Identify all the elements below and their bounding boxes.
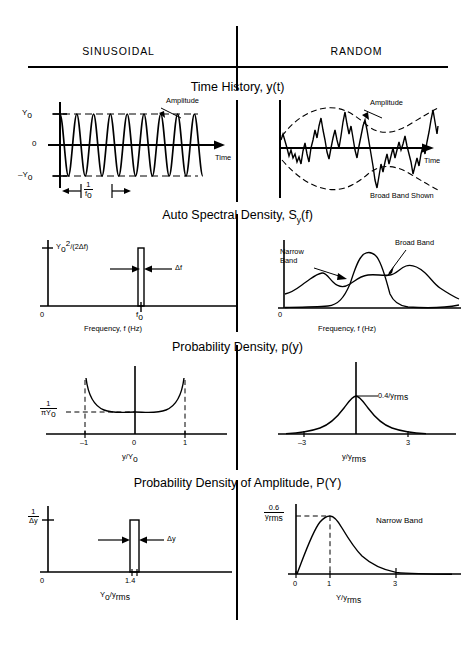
axis-tick-three: 3	[406, 438, 410, 447]
plot-random-pdf-amplitude: 0.6yrms 0 1 3 Narrow Band Y/yrms	[256, 498, 468, 590]
section-title-probability-density-amplitude: Probability Density of Amplitude, P(Y)	[0, 476, 475, 490]
figure-page: SINUSOIDAL RANDOM Time History, y(t)	[0, 0, 475, 664]
axis-tick-zero: 0	[40, 576, 44, 585]
plot-random-asd: 0 NarrowBand Broad Band Frequency, f (Hz…	[256, 228, 468, 320]
column-header-sinusoidal: SINUSOIDAL	[0, 45, 237, 57]
axis-label-y-top: Yo	[22, 108, 32, 120]
column-divider-4	[236, 345, 238, 470]
annotation-amplitude: Amplitude	[370, 98, 403, 107]
annotation-amplitude: Amplitude	[166, 96, 199, 105]
axis-tick-zero: 0	[293, 579, 297, 588]
axis-tick-three: 3	[393, 579, 397, 588]
axis-tick-zero: 0	[40, 310, 44, 319]
axis-tick-f0: fo	[136, 310, 143, 322]
axis-tick-zero: 0	[132, 438, 136, 447]
column-divider-5	[236, 480, 238, 620]
plot-sinusoidal-pdf: 1πYo –1 0 1 y/Yo	[22, 362, 236, 448]
plot-sinusoidal-asd: Yo2/(2Δf) 0 fo Δf Frequency, f (Hz)	[22, 236, 236, 318]
axis-label-y-min: 1πYo	[40, 400, 57, 419]
annotation-peak-value: 0.4/yrms	[378, 391, 408, 402]
plot-sinusoidal-pdf-amplitude: 1Δy 0 1.4 Δy Yo/yrms	[22, 500, 236, 586]
column-header-random: RANDOM	[238, 45, 475, 57]
section-title-time-history: Time History, y(t)	[0, 80, 475, 94]
axis-label-frequency: Frequency, f (Hz)	[84, 324, 142, 333]
section-title-probability-density: Probability Density, p(y)	[0, 340, 475, 354]
section-title-auto-spectral-density: Auto Spectral Density, Sy(f)	[0, 208, 475, 225]
axis-tick-minus-three: –3	[298, 438, 306, 447]
column-divider-2	[236, 100, 238, 202]
axis-label-time: Time	[215, 153, 231, 162]
axis-label-peak-value: 0.6yrms	[264, 504, 284, 523]
axis-label-y-bottom: –Yo	[18, 170, 33, 182]
plot-random-time-history: Time Amplitude Broad Band Shown	[252, 96, 467, 204]
axis-label-y-zero: 0	[32, 139, 36, 148]
axis-tick-zero: 0	[278, 310, 282, 319]
annotation-delta-y: Δy	[167, 534, 176, 543]
axis-label-y-over-y0: y/Yo	[122, 452, 138, 464]
axis-label-one-over-delta-y: 1Δy	[28, 508, 39, 525]
axis-label-Y-over-yrms: Y/yrms	[336, 593, 361, 605]
axis-label-y0-over-yrms: Yo/yrms	[100, 590, 130, 602]
annotation-period: 1fo	[84, 181, 93, 200]
column-divider-3	[236, 214, 238, 332]
axis-tick-minus-one: –1	[80, 438, 88, 447]
axis-label-frequency: Frequency, f (Hz)	[318, 324, 376, 333]
axis-label-time: Time	[424, 156, 440, 165]
annotation-broad-band: Broad Band	[395, 238, 434, 247]
axis-label-y-peak: Yo2/(2Δf)	[56, 239, 88, 254]
axis-tick-1-4: 1.4	[125, 576, 135, 585]
axis-tick-one: 1	[183, 438, 187, 447]
annotation-narrow-band: Narrow Band	[376, 516, 423, 525]
axis-label-y-over-yrms: y/yrms	[342, 452, 366, 464]
axis-tick-one: 1	[327, 579, 331, 588]
annotation-narrow-band: NarrowBand	[280, 248, 304, 265]
plot-random-pdf: 0.4/yrms –3 3 y/yrms	[256, 358, 468, 450]
plot-sinusoidal-time-history: Yo 0 –Yo Time Amplitude 1fo	[18, 96, 236, 200]
annotation-delta-f: Δf	[175, 263, 182, 272]
annotation-broad-band-shown: Broad Band Shown	[370, 191, 434, 200]
